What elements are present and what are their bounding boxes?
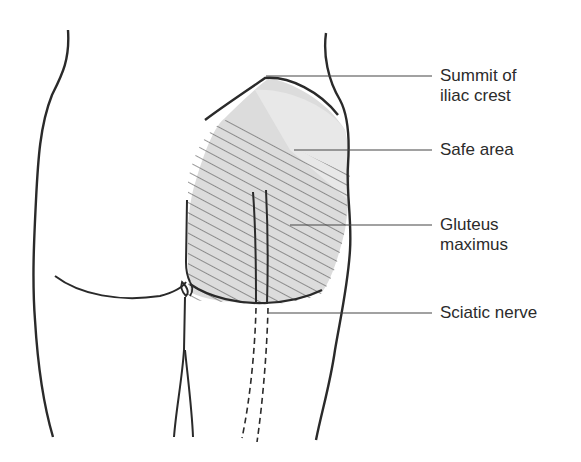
label-gluteus-maximus: Gluteus maximus [440,215,508,255]
label-line: Summit of [440,66,517,86]
label-line: Safe area [440,140,514,160]
inner-thigh-left [174,297,185,437]
left-buttock-curve [55,276,186,298]
label-line: maximus [440,235,508,255]
gluteal-injection-diagram: Summit of iliac crest Safe area Gluteus … [0,0,581,462]
label-safe-area: Safe area [440,140,514,160]
label-line: iliac crest [440,86,517,106]
label-summit-of-iliac-crest: Summit of iliac crest [440,66,517,106]
label-line: Gluteus [440,215,508,235]
inner-thigh-right [185,350,193,437]
label-line: Sciatic nerve [440,303,537,323]
sciatic-nerve-dashed-left [242,308,256,438]
left-hip-outline [33,30,68,437]
label-sciatic-nerve: Sciatic nerve [440,303,537,323]
sciatic-nerve-dashed-right [257,308,268,442]
